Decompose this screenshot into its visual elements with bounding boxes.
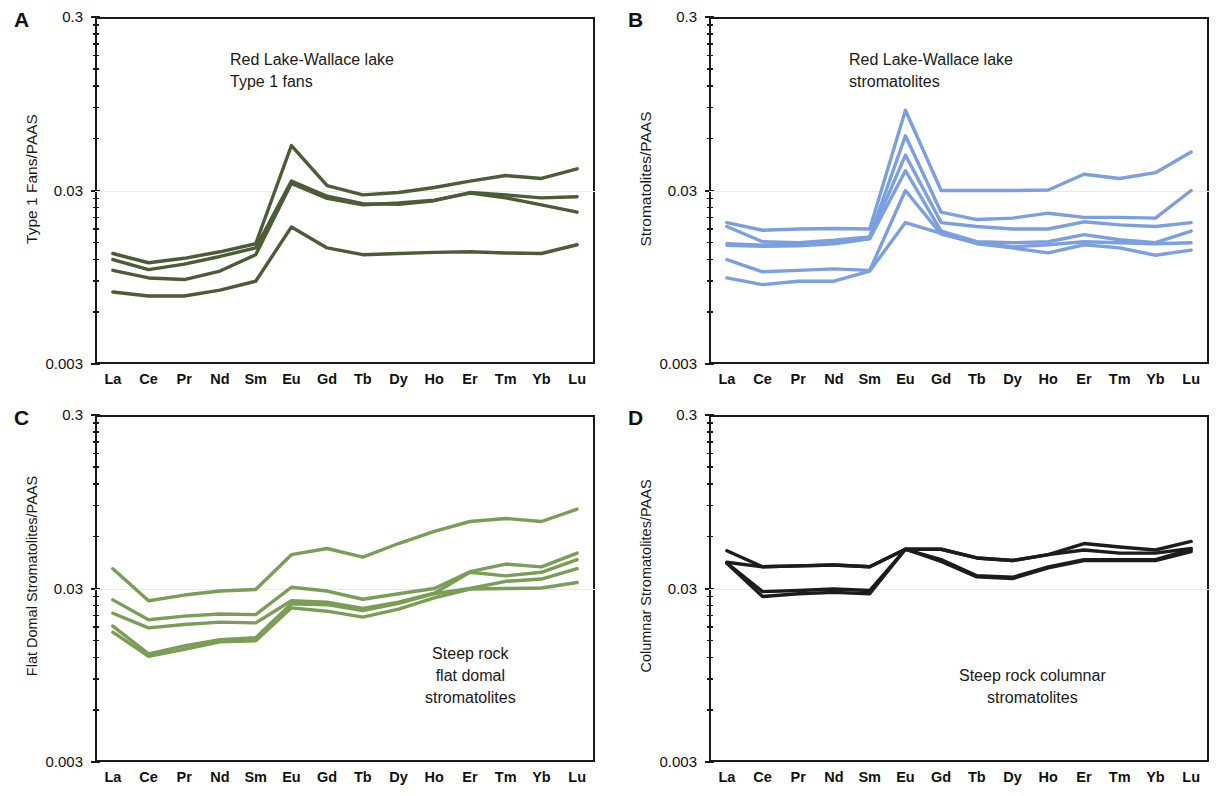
x-tick-label-gd: Gd	[317, 769, 337, 785]
x-axis-labels-d: LaCePrNdSmEuGdTbDyHoErTmYbLu	[709, 769, 1209, 793]
panel-d: D Columnar Stromatolites/PAAS 0.30.030.0…	[614, 398, 1227, 796]
y-tick-label: 0.03	[668, 579, 697, 596]
annotation-c: Steep rock flat domal stromatolites	[425, 643, 516, 709]
x-tick-label-tm: Tm	[495, 371, 517, 387]
y-tick-label: 0.3	[62, 8, 83, 25]
x-tick-label-yb: Yb	[1146, 769, 1165, 785]
y-axis-label-b: Stromatolites/PAAS	[637, 49, 655, 309]
series-line	[113, 227, 577, 296]
x-tick-label-ce: Ce	[139, 769, 158, 785]
annotation-b: Red Lake-Wallace lake stromatolites	[849, 49, 1013, 93]
x-tick-label-la: La	[718, 371, 735, 387]
x-tick-label-ho: Ho	[1039, 371, 1058, 387]
panel-letter-a: A	[14, 8, 29, 32]
x-tick-label-dy: Dy	[1003, 769, 1022, 785]
x-tick-label-ho: Ho	[425, 769, 444, 785]
y-tick-label: 0.03	[54, 579, 83, 596]
x-tick-label-pr: Pr	[177, 769, 192, 785]
series-line	[727, 223, 1191, 285]
x-tick-label-lu: Lu	[1182, 769, 1200, 785]
x-tick-label-tb: Tb	[354, 371, 372, 387]
x-tick-label-pr: Pr	[791, 371, 806, 387]
y-tick-label: 0.03	[54, 181, 83, 198]
y-tick-label: 0.3	[676, 406, 697, 423]
x-tick-label-tm: Tm	[1109, 371, 1131, 387]
x-tick-label-ho: Ho	[1039, 769, 1058, 785]
y-tick-label: 0.3	[62, 406, 83, 423]
x-tick-label-tb: Tb	[968, 371, 986, 387]
y-tick-label: 0.03	[668, 181, 697, 198]
x-tick-label-tm: Tm	[1109, 769, 1131, 785]
series-line	[727, 110, 1191, 230]
x-tick-label-dy: Dy	[389, 371, 408, 387]
x-tick-label-nd: Nd	[210, 371, 229, 387]
panel-c: C Flat Domal Stromatolites/PAAS 0.30.030…	[0, 398, 613, 796]
series-line	[727, 191, 1191, 272]
x-tick-label-ce: Ce	[753, 769, 772, 785]
x-tick-label-ho: Ho	[425, 371, 444, 387]
ree-paas-figure: A Type 1 Fans/PAAS 0.30.030.003 Red Lake…	[0, 0, 1227, 796]
series-line	[113, 569, 577, 654]
y-tick-label: 0.003	[45, 355, 83, 372]
annotation-d: Steep rock columnar stromatolites	[959, 665, 1106, 709]
x-tick-label-er: Er	[1076, 371, 1091, 387]
x-tick-label-ce: Ce	[753, 371, 772, 387]
x-tick-label-nd: Nd	[824, 371, 843, 387]
panel-letter-b: B	[628, 8, 643, 32]
x-axis-labels-b: LaCePrNdSmEuGdTbDyHoErTmYbLu	[709, 371, 1209, 395]
x-tick-label-gd: Gd	[317, 371, 337, 387]
x-tick-label-sm: Sm	[858, 371, 881, 387]
x-tick-label-yb: Yb	[1146, 371, 1165, 387]
x-tick-label-er: Er	[462, 371, 477, 387]
x-tick-label-gd: Gd	[931, 769, 951, 785]
x-tick-label-sm: Sm	[244, 371, 267, 387]
x-tick-label-tb: Tb	[968, 769, 986, 785]
series-line	[113, 146, 577, 263]
series-line	[113, 181, 577, 270]
y-axis-label-c: Flat Domal Stromatolites/PAAS	[24, 446, 40, 706]
x-tick-label-eu: Eu	[282, 371, 301, 387]
y-tick-label: 0.003	[659, 753, 697, 770]
x-tick-label-dy: Dy	[1003, 371, 1022, 387]
annotation-a: Red Lake-Wallace lake Type 1 fans	[230, 49, 394, 93]
series-line	[727, 155, 1191, 245]
x-tick-label-dy: Dy	[389, 769, 408, 785]
x-tick-label-yb: Yb	[532, 371, 551, 387]
panel-b: B Stromatolites/PAAS 0.30.030.003 Red La…	[614, 0, 1227, 398]
series-line	[727, 549, 1191, 567]
x-tick-label-nd: Nd	[824, 769, 843, 785]
plot-area-a: 0.30.030.003 Red Lake-Wallace lake Type …	[95, 17, 595, 364]
x-axis-labels-c: LaCePrNdSmEuGdTbDyHoErTmYbLu	[95, 769, 595, 793]
x-tick-label-yb: Yb	[532, 769, 551, 785]
x-tick-label-tm: Tm	[495, 769, 517, 785]
x-tick-label-pr: Pr	[791, 769, 806, 785]
plot-area-d: 0.30.030.003 Steep rock columnar stromat…	[709, 415, 1209, 762]
y-axis-label-a: Type 1 Fans/PAAS	[23, 49, 41, 309]
series-group-c	[95, 415, 595, 762]
x-tick-label-tb: Tb	[354, 769, 372, 785]
series-line	[113, 553, 577, 620]
panel-letter-c: C	[14, 406, 29, 430]
x-tick-label-gd: Gd	[931, 371, 951, 387]
x-tick-label-lu: Lu	[568, 371, 586, 387]
series-line	[727, 171, 1191, 247]
x-tick-label-eu: Eu	[282, 769, 301, 785]
panel-letter-d: D	[628, 406, 643, 430]
x-tick-label-sm: Sm	[858, 769, 881, 785]
x-tick-label-lu: Lu	[1182, 371, 1200, 387]
y-axis-label-d: Columnar Stromatolites/PAAS	[638, 446, 654, 706]
x-tick-label-nd: Nd	[210, 769, 229, 785]
y-tick-label: 0.3	[676, 8, 697, 25]
x-tick-label-la: La	[104, 769, 121, 785]
x-tick-label-eu: Eu	[896, 371, 915, 387]
x-tick-label-er: Er	[1076, 769, 1091, 785]
plot-area-b: 0.30.030.003 Red Lake-Wallace lake strom…	[709, 17, 1209, 364]
x-tick-label-eu: Eu	[896, 769, 915, 785]
y-tick-label: 0.003	[45, 753, 83, 770]
x-tick-label-la: La	[718, 769, 735, 785]
x-tick-label-pr: Pr	[177, 371, 192, 387]
x-tick-label-sm: Sm	[244, 769, 267, 785]
x-tick-label-er: Er	[462, 769, 477, 785]
series-group-d	[709, 415, 1209, 762]
x-tick-label-la: La	[104, 371, 121, 387]
